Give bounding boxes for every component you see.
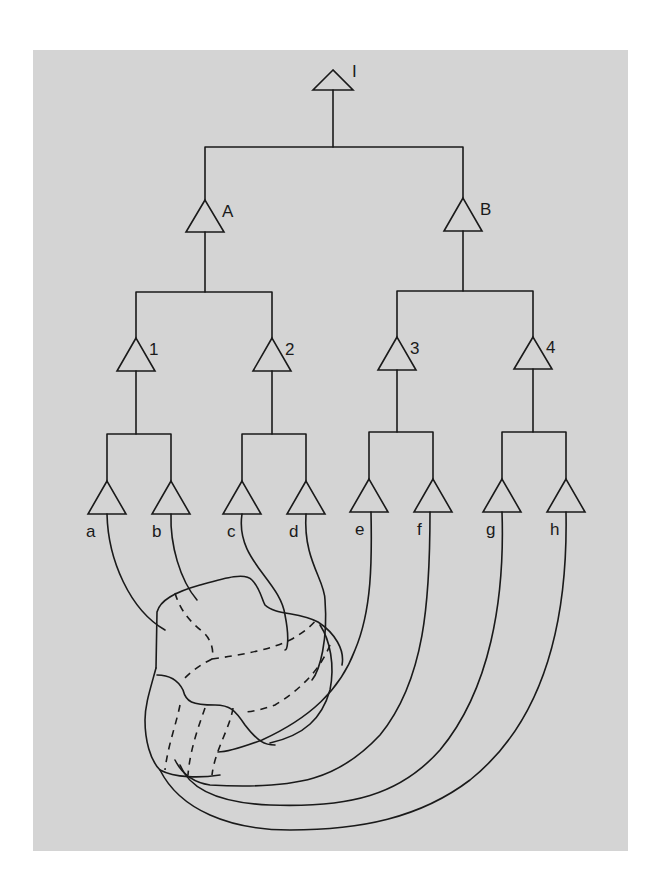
node-4-label: 4 — [546, 338, 555, 357]
node-1-label: 1 — [149, 340, 158, 359]
node-3-label: 3 — [410, 339, 419, 358]
svg-text:b: b — [152, 522, 161, 541]
root-label: I — [352, 62, 357, 81]
svg-text:c: c — [227, 522, 236, 541]
node-B-label: B — [480, 200, 491, 219]
node-2-label: 2 — [285, 340, 294, 359]
tree-diagram: I A B 1 2 3 4 a b — [0, 0, 655, 881]
svg-text:g: g — [486, 520, 495, 539]
gray-panel — [33, 50, 628, 851]
node-A-label: A — [222, 202, 234, 221]
svg-text:a: a — [86, 522, 96, 541]
svg-text:f: f — [417, 520, 422, 539]
svg-text:e: e — [355, 520, 364, 539]
svg-text:d: d — [289, 522, 298, 541]
svg-text:h: h — [550, 520, 559, 539]
